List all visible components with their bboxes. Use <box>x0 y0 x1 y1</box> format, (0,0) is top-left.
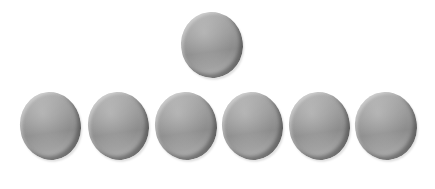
disc-3 <box>151 88 222 164</box>
disc-4 <box>218 88 288 164</box>
disc-5 <box>285 88 355 164</box>
disc-top <box>177 8 248 82</box>
disc-1 <box>16 88 86 164</box>
disc-6 <box>351 88 422 164</box>
diagram-canvas <box>0 0 435 189</box>
disc-2 <box>84 88 154 164</box>
